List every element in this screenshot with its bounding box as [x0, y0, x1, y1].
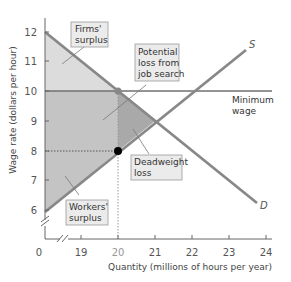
y-tick-12: 12	[24, 27, 37, 38]
svg-text:Deadweight: Deadweight	[134, 157, 189, 167]
y-axis-title: Wage rate (dollars per hour)	[8, 46, 18, 174]
minimum-wage-label-line2: wage	[232, 106, 257, 116]
y-tick-10: 10	[24, 86, 37, 97]
x-tick-19: 19	[75, 247, 88, 258]
svg-text:Potential: Potential	[138, 47, 177, 57]
deadweight-loss-region	[118, 91, 155, 151]
svg-text:surplus: surplus	[69, 213, 102, 223]
potential-loss-label: Potential loss from job search	[135, 44, 184, 81]
x-tick-22: 22	[186, 247, 199, 258]
supply-price-point	[114, 147, 122, 155]
labor-market-chart: 12 11 10 9 8 7 6 0 19 20 21 22 23 24 Wag…	[0, 0, 291, 282]
svg-text:Firms': Firms'	[75, 24, 102, 34]
svg-text:surplus: surplus	[75, 35, 108, 45]
supply-label: S	[249, 39, 256, 50]
x-tick-23: 23	[223, 247, 236, 258]
origin-label: 0	[36, 247, 42, 258]
minimum-wage-label-line1: Minimum	[232, 95, 274, 105]
x-tick-24: 24	[260, 247, 273, 258]
min-wage-demand-point	[115, 88, 122, 95]
x-tick-21: 21	[149, 247, 162, 258]
y-tick-6: 6	[31, 205, 37, 216]
svg-text:Workers': Workers'	[69, 202, 108, 212]
firms-surplus-label: Firms' surplus	[71, 22, 108, 47]
y-tick-8: 8	[31, 146, 37, 157]
x-axis-title: Quantity (millions of hours per year)	[108, 262, 272, 272]
x-tick-20: 20	[112, 247, 125, 258]
svg-text:loss from: loss from	[138, 58, 179, 68]
potential-loss-region	[45, 91, 118, 151]
demand-label: D	[260, 200, 268, 211]
y-tick-7: 7	[31, 175, 37, 186]
svg-text:loss: loss	[134, 168, 152, 178]
deadweight-loss-label: Deadweight loss	[131, 155, 189, 180]
y-tick-9: 9	[31, 116, 37, 127]
y-tick-11: 11	[24, 56, 37, 67]
workers-surplus-label: Workers' surplus	[66, 200, 108, 225]
svg-text:job search: job search	[137, 69, 184, 79]
x-ticks	[81, 235, 266, 239]
